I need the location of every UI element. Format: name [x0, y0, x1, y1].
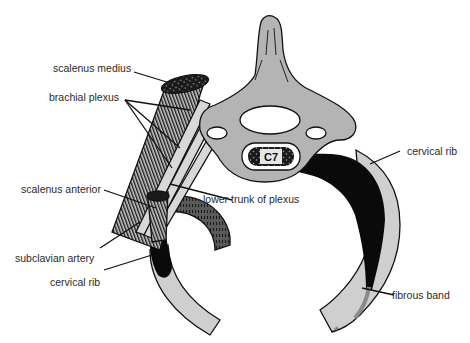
label-brachial-plexus: brachial plexus — [49, 91, 119, 103]
right-cervical-rib — [280, 150, 400, 332]
label-cervical-rib-left: cervical rib — [50, 276, 100, 288]
label-lower-trunk-of-plexus: lower trunk of plexus — [203, 193, 299, 205]
vertebra-label: C7 — [264, 151, 278, 163]
label-subclavian-artery: subclavian artery — [15, 252, 95, 264]
cervical-rib-diagram: C7 MK scalenus medius brachial plexus sc… — [0, 0, 470, 343]
label-fibrous-band: fibrous band — [392, 289, 450, 301]
label-scalenus-anterior: scalenus anterior — [21, 183, 101, 195]
label-scalenus-medius: scalenus medius — [53, 62, 131, 74]
label-cervical-rib-right: cervical rib — [407, 145, 457, 157]
